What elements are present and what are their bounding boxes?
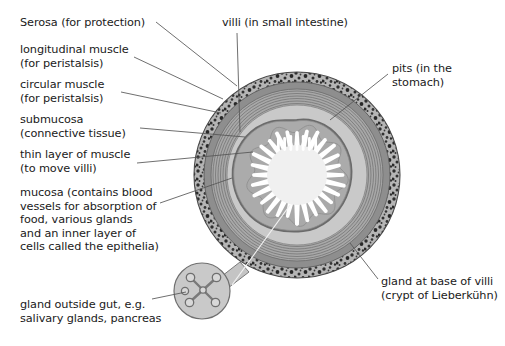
- lumen: [267, 145, 327, 205]
- short-villus: [296, 137, 299, 151]
- label-submucosa: submucosa (connective tissue): [20, 113, 126, 140]
- label-crypt-line-1: gland at base of villi: [381, 275, 493, 288]
- external-gland: [174, 262, 249, 319]
- label-mucosa-line-5: cells called the epithelia): [20, 240, 159, 253]
- label-submucosa-line-1: submucosa: [20, 113, 83, 126]
- label-thin-layer-of-muscle: thin layer of muscle (to move villi): [20, 148, 130, 175]
- short-villus: [283, 137, 286, 151]
- short-villus: [314, 135, 317, 151]
- short-villus: [277, 135, 280, 151]
- label-mucosa-line-2: vessels for absorption of: [20, 200, 156, 213]
- label-circular-muscle-line-2: (for peristalsis): [20, 92, 103, 105]
- label-villi: villi (in small intestine): [222, 16, 348, 30]
- label-pits-line-2: stomach): [392, 76, 444, 89]
- label-mucosa-line-4: and an inner layer of: [20, 227, 136, 240]
- short-villus: [308, 137, 311, 151]
- villus: [294, 204, 299, 226]
- label-thin-muscle-line-2: (to move villi): [20, 162, 97, 175]
- label-longitudinal-muscle: longitudinal muscle (for peristalsis): [20, 43, 129, 70]
- label-gland-at-base-of-villi: gland at base of villi (crypt of Lieberk…: [381, 275, 498, 302]
- short-villus: [289, 135, 292, 151]
- label-circular-muscle: circular muscle (for peristalsis): [20, 78, 104, 105]
- label-circular-muscle-line-1: circular muscle: [20, 78, 104, 91]
- label-longitudinal-muscle-line-2: (for peristalsis): [20, 57, 103, 70]
- label-mucosa-line-3: food, various glands: [20, 213, 133, 226]
- label-pits-line-1: pits (in the: [392, 62, 452, 75]
- label-pits: pits (in the stomach): [392, 62, 452, 89]
- label-villi-line-1: villi (in small intestine): [222, 16, 348, 29]
- short-villus: [302, 135, 305, 151]
- label-serosa-line-1: Serosa (for protection): [20, 16, 145, 29]
- label-gland-outside-gut: gland outside gut, e.g. salivary glands,…: [20, 298, 161, 325]
- label-gland-outside-gut-line-1: gland outside gut, e.g.: [20, 298, 145, 311]
- label-mucosa: mucosa (contains blood vessels for absor…: [20, 186, 159, 254]
- leader-longitudinal-muscle: [134, 57, 223, 99]
- label-gland-outside-gut-line-2: salivary glands, pancreas: [20, 312, 161, 325]
- label-serosa: Serosa (for protection): [20, 16, 145, 30]
- label-longitudinal-muscle-line-1: longitudinal muscle: [20, 43, 129, 56]
- leader-circular-muscle: [121, 92, 221, 113]
- gut-cross-section: [194, 72, 400, 278]
- label-crypt-line-2: (crypt of Lieberkühn): [381, 289, 498, 302]
- leader-serosa: [156, 22, 237, 86]
- label-submucosa-line-2: (connective tissue): [20, 127, 126, 140]
- label-mucosa-line-1: mucosa (contains blood: [20, 186, 153, 199]
- label-thin-muscle-line-1: thin layer of muscle: [20, 148, 130, 161]
